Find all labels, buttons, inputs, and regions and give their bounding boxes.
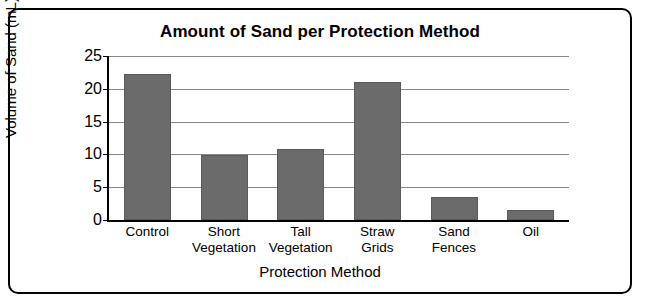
gridline bbox=[109, 122, 569, 123]
y-axis-tick-mark bbox=[103, 154, 109, 155]
y-axis-tick-mark bbox=[103, 220, 109, 221]
x-axis-category-label-line: Straw bbox=[339, 224, 416, 240]
bar bbox=[354, 82, 401, 220]
bar bbox=[124, 74, 171, 220]
x-axis-category-label-line: Control bbox=[109, 224, 186, 240]
x-axis-category-label: Control bbox=[109, 224, 186, 240]
y-axis-tick-mark bbox=[103, 56, 109, 57]
x-axis-category-label-line: Grids bbox=[339, 240, 416, 256]
x-axis-category-label-line: Vegetation bbox=[262, 240, 339, 256]
x-axis-category-label: ShortVegetation bbox=[186, 224, 263, 256]
plot-area: 0510152025ControlShortVegetationTallVege… bbox=[107, 56, 569, 222]
gridline bbox=[109, 56, 569, 57]
y-axis-tick-label: 15 bbox=[84, 113, 102, 131]
bar bbox=[507, 210, 554, 220]
bar bbox=[431, 197, 478, 220]
x-axis-category-label-line: Vegetation bbox=[186, 240, 263, 256]
x-axis-category-label: Oil bbox=[492, 224, 569, 240]
y-axis-tick-mark bbox=[103, 187, 109, 188]
y-axis-tick-label: 5 bbox=[93, 178, 102, 196]
x-axis-category-label: SandFences bbox=[416, 224, 493, 256]
x-axis-category-label: TallVegetation bbox=[262, 224, 339, 256]
x-axis-category-label-line: Oil bbox=[492, 224, 569, 240]
x-axis-category-label-line: Sand bbox=[416, 224, 493, 240]
y-axis-title: Volume of Sand (mL) bbox=[2, 0, 19, 138]
gridline bbox=[109, 89, 569, 90]
y-axis-tick-label: 25 bbox=[84, 47, 102, 65]
gridline bbox=[109, 154, 569, 155]
x-axis-category-label-line: Short bbox=[186, 224, 263, 240]
x-axis-category-label-line: Tall bbox=[262, 224, 339, 240]
y-axis-tick-label: 20 bbox=[84, 80, 102, 98]
x-axis-title: Protection Method bbox=[10, 263, 630, 280]
y-axis-tick-label: 0 bbox=[93, 211, 102, 229]
y-axis-tick-label: 10 bbox=[84, 145, 102, 163]
bar bbox=[201, 155, 248, 220]
x-axis-category-label-line: Fences bbox=[416, 240, 493, 256]
x-axis-category-label: StrawGrids bbox=[339, 224, 416, 256]
bar bbox=[277, 149, 324, 220]
chart-panel: Amount of Sand per Protection Method Vol… bbox=[8, 8, 632, 294]
gridline bbox=[109, 187, 569, 188]
y-axis-tick-mark bbox=[103, 89, 109, 90]
chart-title: Amount of Sand per Protection Method bbox=[10, 22, 630, 42]
y-axis-tick-mark bbox=[103, 122, 109, 123]
